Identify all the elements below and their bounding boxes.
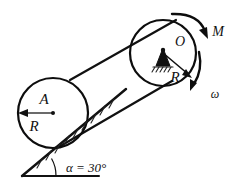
label-incline-angle: α = 30° bbox=[66, 160, 106, 175]
label-disk-radius-R: R bbox=[28, 118, 38, 134]
pin-support-hatching bbox=[152, 67, 171, 72]
moment-arrowhead bbox=[199, 27, 208, 39]
pulley-O-center-dot bbox=[161, 48, 165, 52]
label-moment-M: M bbox=[211, 24, 225, 39]
mechanics-figure: A R O R M ω α = 30° bbox=[0, 0, 232, 194]
incline-angle-arc bbox=[52, 159, 57, 177]
belt-lower-line bbox=[57, 81, 172, 148]
label-disk-center-A: A bbox=[38, 91, 49, 107]
belt-cord-group bbox=[57, 20, 176, 148]
disk-A-group bbox=[18, 78, 88, 148]
disk-A-center-dot bbox=[51, 111, 55, 115]
figure-canvas: A R O R M ω α = 30° bbox=[0, 0, 232, 194]
label-pulley-center-O: O bbox=[175, 34, 185, 49]
disk-A-radius-arrowhead bbox=[18, 109, 28, 117]
label-pulley-radius-R: R bbox=[169, 69, 179, 85]
pulley-O-group bbox=[130, 20, 196, 86]
label-angular-velocity-omega: ω bbox=[211, 87, 219, 101]
